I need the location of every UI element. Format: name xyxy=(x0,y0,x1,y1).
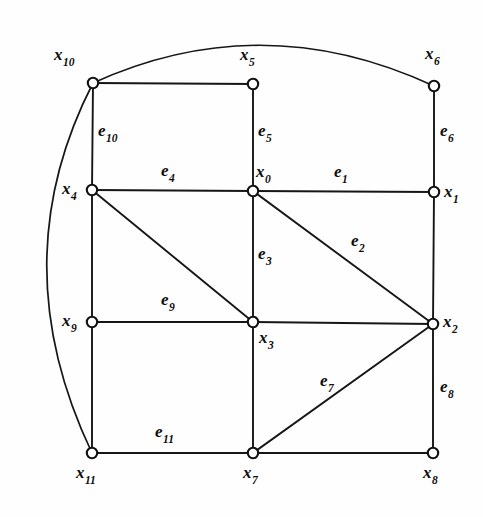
edge-label-e8: e8 xyxy=(440,378,453,399)
edge-label-e1: e1 xyxy=(334,163,347,184)
graph-edge-u4 xyxy=(433,192,434,324)
edge-label-base: e xyxy=(98,121,106,140)
vertex-label-subscript: 1 xyxy=(453,193,459,205)
edge-label-e5: e5 xyxy=(258,122,271,143)
edge-label-e3: e3 xyxy=(258,245,271,266)
vertex-label-base: x xyxy=(444,182,453,201)
edge-label-base: e xyxy=(440,121,448,140)
graph-edge-arc_top xyxy=(93,45,434,86)
graph-vertex-x0[interactable] xyxy=(248,186,258,196)
vertex-label-x10: x10 xyxy=(54,46,74,67)
edge-label-e10: e10 xyxy=(98,122,117,143)
vertex-label-base: x xyxy=(423,463,432,482)
edge-label-subscript: 5 xyxy=(266,132,272,144)
graph-canvas xyxy=(0,0,483,517)
edge-label-base: e xyxy=(155,422,163,441)
graph-vertex-x8[interactable] xyxy=(428,448,438,458)
edge-label-e7: e7 xyxy=(320,372,333,393)
vertex-label-base: x xyxy=(443,312,452,331)
edge-label-subscript: 8 xyxy=(448,388,454,400)
vertex-label-x5: x5 xyxy=(240,46,254,67)
vertex-label-subscript: 4 xyxy=(71,190,77,202)
vertex-label-x3: x3 xyxy=(259,329,273,350)
graph-vertex-x10[interactable] xyxy=(88,78,98,88)
edge-label-base: e xyxy=(258,244,266,263)
graph-vertex-x5[interactable] xyxy=(248,79,258,89)
vertex-label-x9: x9 xyxy=(62,312,76,333)
edge-label-e11: e11 xyxy=(155,423,173,444)
graph-edge-e2 xyxy=(253,191,433,324)
vertex-label-base: x xyxy=(62,179,71,198)
graph-diagram: e1e2e3e4e5e6e7e8e9e10e11x0x1x2x3x4x5x6x7… xyxy=(0,0,483,517)
graph-edge-arc_left xyxy=(47,83,93,453)
vertex-label-x11: x11 xyxy=(76,464,95,485)
edge-label-subscript: 11 xyxy=(163,433,174,445)
edge-label-e4: e4 xyxy=(161,162,174,183)
vertex-label-x4: x4 xyxy=(62,180,76,201)
edge-label-e9: e9 xyxy=(161,291,174,312)
edge-label-e2: e2 xyxy=(351,232,364,253)
edge-label-subscript: 6 xyxy=(448,132,454,144)
edge-label-subscript: 4 xyxy=(169,172,175,184)
graph-vertex-x11[interactable] xyxy=(87,448,97,458)
edge-label-base: e xyxy=(161,161,169,180)
vertex-label-base: x xyxy=(259,328,268,347)
vertex-label-base: x xyxy=(256,162,265,181)
graph-edge-u3 xyxy=(253,322,433,324)
edge-label-base: e xyxy=(320,371,328,390)
graph-edge-e7 xyxy=(253,324,433,453)
graph-edge-e1 xyxy=(253,191,434,192)
vertex-label-base: x xyxy=(76,463,85,482)
vertex-label-subscript: 6 xyxy=(434,55,440,67)
graph-vertex-x6[interactable] xyxy=(429,81,439,91)
edges-layer xyxy=(47,45,434,453)
vertex-label-x0: x0 xyxy=(256,163,270,184)
vertex-label-subscript: 2 xyxy=(452,323,458,335)
edge-label-base: e xyxy=(334,162,342,181)
edge-label-subscript: 1 xyxy=(342,173,348,185)
graph-vertex-x9[interactable] xyxy=(87,317,97,327)
edge-label-subscript: 7 xyxy=(328,382,334,394)
vertex-label-subscript: 5 xyxy=(249,56,255,68)
vertex-label-subscript: 3 xyxy=(268,339,274,351)
edge-label-subscript: 3 xyxy=(266,255,272,267)
graph-edge-u1 xyxy=(93,83,253,84)
graph-edge-e10 xyxy=(92,83,93,190)
vertex-label-subscript: 8 xyxy=(432,474,438,486)
vertex-label-base: x xyxy=(240,45,249,64)
vertex-label-subscript: 7 xyxy=(252,474,258,486)
edge-label-base: e xyxy=(440,377,448,396)
edge-label-subscript: 2 xyxy=(359,242,365,254)
edge-label-base: e xyxy=(258,121,266,140)
vertex-label-x6: x6 xyxy=(425,45,439,66)
edge-label-e6: e6 xyxy=(440,122,453,143)
edge-label-base: e xyxy=(351,231,359,250)
graph-vertex-x4[interactable] xyxy=(87,185,97,195)
vertex-label-base: x xyxy=(62,311,71,330)
graph-vertex-x2[interactable] xyxy=(428,319,438,329)
edge-label-base: e xyxy=(161,290,169,309)
vertex-label-x2: x2 xyxy=(443,313,457,334)
vertex-label-base: x xyxy=(243,463,252,482)
graph-vertex-x1[interactable] xyxy=(429,187,439,197)
graph-vertex-x3[interactable] xyxy=(248,317,258,327)
vertex-label-subscript: 9 xyxy=(71,322,77,334)
edge-label-subscript: 10 xyxy=(106,132,118,144)
vertex-label-x7: x7 xyxy=(243,464,257,485)
graph-vertex-x7[interactable] xyxy=(248,448,258,458)
edge-label-subscript: 9 xyxy=(169,301,175,313)
graph-edge-e4 xyxy=(92,190,253,191)
vertex-label-base: x xyxy=(54,45,63,64)
vertex-label-subscript: 11 xyxy=(85,474,96,486)
vertex-label-subscript: 10 xyxy=(63,56,75,68)
vertex-label-x8: x8 xyxy=(423,464,437,485)
vertex-label-base: x xyxy=(425,44,434,63)
vertex-label-x1: x1 xyxy=(444,183,458,204)
vertex-label-subscript: 0 xyxy=(265,173,271,185)
